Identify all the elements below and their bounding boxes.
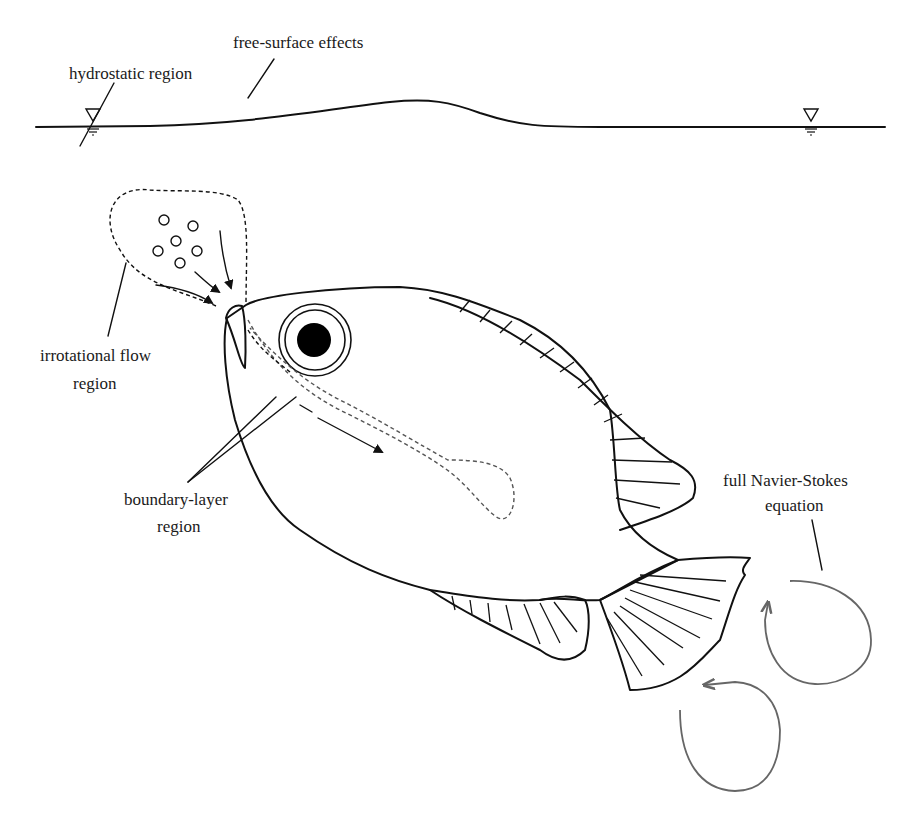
hydrostatic-leader bbox=[80, 83, 114, 146]
fish-jaw bbox=[226, 306, 246, 369]
free-surface-line bbox=[36, 100, 885, 127]
dorsal-fin-rays bbox=[460, 300, 680, 508]
boundary-layer-region bbox=[248, 320, 514, 519]
water-level-right-icon bbox=[804, 109, 818, 135]
boundary-leader-2 bbox=[188, 397, 296, 482]
navier-stokes-label-2: equation bbox=[765, 496, 824, 515]
vortex-1 bbox=[765, 581, 871, 684]
navier-stokes-leader bbox=[812, 520, 822, 570]
free-surface-label: free-surface effects bbox=[233, 33, 363, 52]
irrotational-label-1: irrotational flow bbox=[40, 346, 152, 365]
dorsal-fin bbox=[430, 298, 695, 530]
boundary-label-2: region bbox=[157, 517, 201, 536]
hydrostatic-label: hydrostatic region bbox=[69, 64, 193, 83]
free-surface-leader bbox=[248, 59, 274, 98]
fish-eye bbox=[279, 304, 351, 376]
particles bbox=[153, 215, 202, 268]
caudal-fin-rays bbox=[607, 575, 726, 676]
irrotational-label-2: region bbox=[73, 374, 117, 393]
fish-flow-diagram: free-surface effects hydrostatic region … bbox=[0, 0, 916, 824]
fish-body-outline bbox=[225, 287, 678, 600]
navier-stokes-label-1: full Navier-Stokes bbox=[723, 471, 848, 490]
boundary-label-1: boundary-layer bbox=[124, 490, 228, 509]
vortex-2 bbox=[680, 682, 780, 791]
irrotational-leader bbox=[108, 263, 126, 336]
